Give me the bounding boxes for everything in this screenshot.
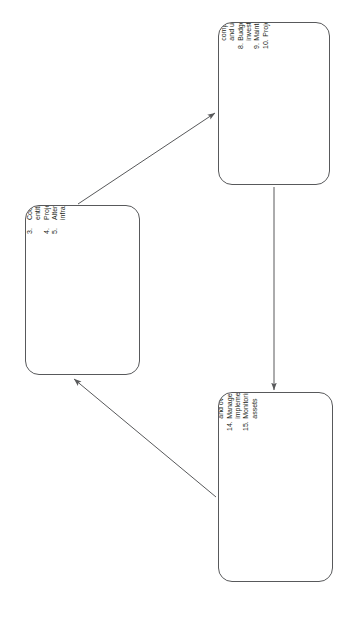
- list-item: 13. Portfolio management and oversight: [218, 392, 225, 431]
- diagram-canvas: Planning 1. Fiscal targets and rules 2. …: [0, 0, 351, 621]
- edge-planning-to-allocation: [78, 113, 215, 204]
- list-item: 15. Monitoring of public assets: [242, 392, 259, 431]
- item-number: 8.: [237, 43, 245, 49]
- edge-implementation-to-planning: [74, 379, 216, 497]
- node-implementation-items: 11. Procurement 12. Availability of fund…: [218, 392, 259, 431]
- node-planning[interactable]: Planning 1. Fiscal targets and rules 2. …: [25, 205, 140, 375]
- item-text: Management of project implementation: [225, 392, 242, 419]
- list-item: 10. Project selection: [262, 22, 270, 49]
- item-number: 9.: [253, 43, 261, 49]
- list-item: 14. Management of project implementation: [225, 392, 242, 431]
- list-item: 9. Maintenance funding: [253, 22, 261, 49]
- item-text: Alternative infrastructure financing: [51, 205, 68, 220]
- list-item: 3. Coordination between entities: [25, 205, 42, 234]
- item-number: 7.: [218, 43, 220, 49]
- list-item: 4. Project appraisal: [42, 205, 50, 234]
- item-number: 15.: [242, 421, 250, 431]
- node-planning-items: 1. Fiscal targets and rules 2. National …: [25, 205, 67, 234]
- node-implementation[interactable]: Implementation 11. Procurement 12. Avail…: [218, 392, 333, 582]
- item-text: Portfolio management and oversight: [218, 392, 225, 419]
- item-number: 3.: [25, 225, 33, 234]
- list-item: 7. Budget comprehensiveness and unity: [218, 22, 237, 49]
- item-number: 5.: [51, 225, 59, 234]
- item-text: Project selection: [262, 22, 270, 36]
- item-number: 4.: [42, 225, 50, 234]
- item-number: 10.: [262, 39, 270, 49]
- item-number: 14.: [225, 421, 233, 431]
- item-text: Budget comprehensiveness and unity: [218, 22, 237, 40]
- item-text: Maintenance funding: [253, 22, 261, 40]
- item-text: Project appraisal: [42, 205, 50, 220]
- node-allocation[interactable]: Allocation 6. Multi-layer budgeting 7. B…: [218, 22, 330, 185]
- item-text: Monitoring of public assets: [242, 392, 259, 419]
- node-allocation-items: 6. Multi-layer budgeting 7. Budget compr…: [218, 22, 270, 49]
- item-text: Coordination between entities: [25, 205, 42, 220]
- item-text: Budgeting for investment: [237, 22, 254, 40]
- list-item: 8. Budgeting for investment: [237, 22, 254, 49]
- list-item: 5. Alternative infrastructure financing: [51, 205, 68, 234]
